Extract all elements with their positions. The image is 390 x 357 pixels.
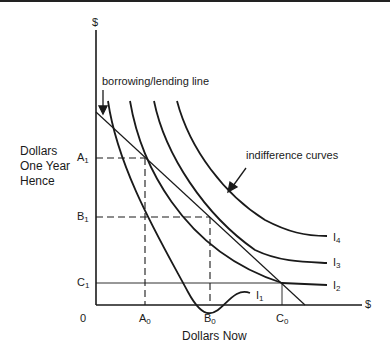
borrowing-lending-line	[96, 112, 305, 305]
indifference-arrow-shaft	[233, 168, 246, 186]
origin-label: 0	[80, 312, 86, 325]
indifference-curve-i3	[154, 101, 327, 263]
tick-c0: C0	[276, 312, 288, 328]
y-axis-title-line3: Hence	[20, 174, 70, 189]
tick-c1: C1	[77, 276, 89, 292]
curve-label-i3: I3	[333, 256, 341, 272]
x-axis-unit: $	[365, 298, 371, 311]
indifference-curve-i4	[177, 101, 327, 236]
y-axis-unit: $	[92, 16, 98, 29]
curve-label-i2: I2	[333, 279, 341, 295]
y-axis-title-line2: One Year	[20, 159, 70, 174]
y-axis-title-line1: Dollars	[20, 144, 70, 159]
tick-b0: B0	[204, 312, 216, 328]
borrowing-arrow-icon	[99, 106, 107, 114]
indifference-curves-annotation: indifference curves	[246, 149, 338, 162]
indifference-curve-i2	[130, 101, 327, 285]
x-axis-title: Dollars Now	[182, 330, 247, 343]
curve-label-i1: I1	[256, 289, 264, 305]
indifference-curve-i1	[108, 101, 250, 313]
tick-b1: B1	[77, 210, 89, 226]
curve-label-i4: I4	[333, 231, 341, 247]
y-axis-title: Dollars One Year Hence	[20, 144, 70, 189]
borrowing-lending-annotation: borrowing/lending line	[102, 75, 209, 88]
tick-a1: A1	[77, 151, 89, 167]
indifference-arrow-icon	[228, 182, 237, 192]
tick-a0: A0	[139, 312, 151, 328]
